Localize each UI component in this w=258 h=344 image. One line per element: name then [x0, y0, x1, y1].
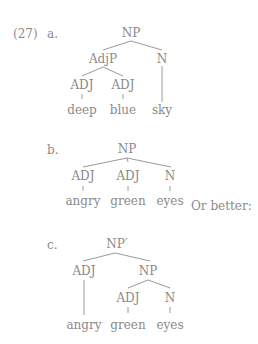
node-adjp: AdjP — [89, 52, 117, 66]
node-adj: ADJ — [116, 291, 139, 305]
node-n: N — [165, 169, 176, 183]
node-adj: ADJ — [71, 169, 94, 183]
node-n: N — [157, 52, 168, 66]
root-node: NP — [122, 26, 141, 40]
word-leaf: eyes — [156, 318, 183, 332]
word-leaf: green — [110, 318, 145, 332]
tree-label: c. — [47, 238, 58, 252]
word-leaf: angry — [66, 318, 101, 332]
word-leaf: sky — [152, 103, 172, 117]
root-node: NP′ — [106, 237, 127, 251]
node-adj: ADJ — [72, 264, 95, 278]
word-leaf: angry — [65, 194, 100, 208]
tree-label: b. — [47, 143, 59, 157]
node-np: NP — [139, 264, 158, 278]
connector-text: Or better: — [191, 199, 252, 213]
tree-label: a. — [47, 27, 58, 41]
word-leaf: blue — [110, 103, 136, 117]
word-leaf: deep — [67, 103, 97, 117]
example-number: (27) — [13, 27, 38, 41]
word-leaf: eyes — [156, 194, 183, 208]
root-node: NP — [118, 142, 137, 156]
node-adj: ADJ — [111, 78, 134, 92]
node-adj: ADJ — [70, 78, 93, 92]
node-n: N — [165, 291, 176, 305]
node-adj: ADJ — [116, 169, 139, 183]
word-leaf: green — [110, 194, 145, 208]
